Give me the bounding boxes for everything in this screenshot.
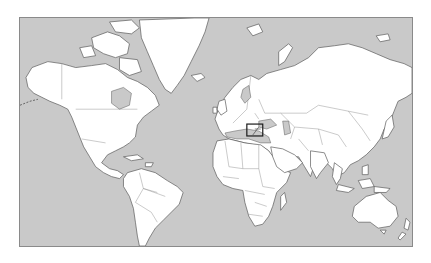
map-canvas xyxy=(20,18,412,246)
highlight-label: Highlighted region: Eastern Mediterranea… xyxy=(20,246,21,247)
world-map: World map xyxy=(19,17,413,247)
